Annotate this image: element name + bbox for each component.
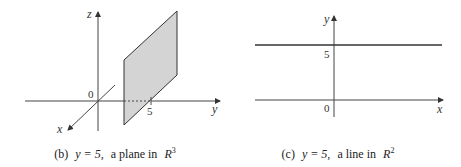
panel-c-line-in-r2: y x 5 0 (c) y = 5, a line in R2: [255, 12, 443, 161]
tick-label-5: 5: [324, 48, 330, 60]
caption-prefix: (b): [54, 147, 68, 161]
caption-exponent: 3: [172, 146, 176, 155]
caption-text: a plane in: [111, 147, 158, 161]
caption-text: a line in: [337, 147, 376, 161]
y-axis-label: y: [211, 102, 218, 116]
caption-c: (c) y = 5, a line in R2: [282, 146, 395, 161]
panel-b-plane-in-r3: z y x 0 5 (b) y = 5, a plane in R3: [25, 7, 220, 161]
origin-label: 0: [88, 88, 94, 100]
y-axis-label: y: [323, 12, 330, 26]
caption-prefix: (c): [282, 147, 295, 161]
caption-b: (b) y = 5, a plane in R3: [54, 146, 175, 161]
origin-label: 0: [324, 102, 330, 114]
caption-equation: y = 5,: [74, 147, 103, 161]
z-axis-label: z: [86, 7, 92, 21]
caption-equation: y = 5,: [301, 147, 330, 161]
figure: z y x 0 5 (b) y = 5, a plane in R3 y x 5…: [0, 0, 461, 167]
x-axis-label: x: [56, 122, 63, 136]
x-axis-label: x: [436, 102, 443, 116]
tick-label-5: 5: [147, 105, 153, 117]
caption-exponent: 2: [390, 146, 394, 155]
